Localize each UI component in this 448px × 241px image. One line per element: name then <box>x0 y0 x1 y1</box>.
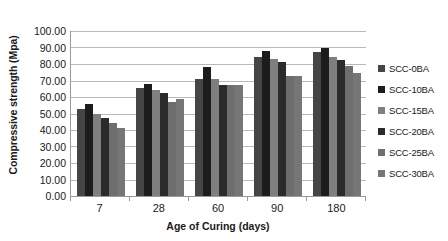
y-axis-tick-label: 0.00 <box>46 190 66 202</box>
bar[interactable] <box>353 73 361 196</box>
legend-swatch-icon <box>378 86 385 93</box>
bar-group <box>307 31 366 196</box>
bar[interactable] <box>77 109 85 196</box>
x-axis-tick-label: 28 <box>129 202 188 218</box>
bar[interactable] <box>117 128 125 196</box>
legend-item-label: SCC-25BA <box>389 147 434 158</box>
legend-item-label: SCC-15BA <box>389 105 434 116</box>
legend-swatch-icon <box>378 170 385 177</box>
bar-groups <box>71 31 366 196</box>
bar[interactable] <box>176 99 184 196</box>
legend-swatch-icon <box>378 149 385 156</box>
bar[interactable] <box>101 118 109 196</box>
y-axis-tick-label: 20.00 <box>40 157 66 169</box>
legend-item-label: SCC-30BA <box>389 168 434 179</box>
bar[interactable] <box>195 79 203 196</box>
y-axis-tick-label: 60.00 <box>40 91 66 103</box>
legend-item[interactable]: SCC-10BA <box>378 79 448 100</box>
y-axis-tick-label: 30.00 <box>40 141 66 153</box>
bar[interactable] <box>345 66 353 196</box>
y-axis-tick-label: 10.00 <box>40 174 66 186</box>
bar[interactable] <box>313 52 321 196</box>
bar[interactable] <box>203 67 211 196</box>
bar[interactable] <box>235 85 243 196</box>
bar[interactable] <box>270 59 278 196</box>
y-axis-tick-label: 90.00 <box>40 42 66 54</box>
x-axis-tick-mark <box>365 197 366 201</box>
bar[interactable] <box>211 79 219 196</box>
chart-legend: SCC-0BASCC-10BASCC-15BASCC-20BASCC-25BAS… <box>378 58 448 184</box>
y-axis-tick-label: 40.00 <box>40 124 66 136</box>
bar-group <box>248 31 307 196</box>
y-axis-tick-labels: 0.0010.0020.0030.0040.0050.0060.0070.008… <box>24 25 70 202</box>
bar[interactable] <box>144 84 152 196</box>
bar-group <box>130 31 189 196</box>
y-axis-title-label: Compressive strength (Mpa) <box>7 35 19 174</box>
legend-swatch-icon <box>378 107 385 114</box>
bar[interactable] <box>286 76 294 196</box>
legend-item-label: SCC-10BA <box>389 84 434 95</box>
bar[interactable] <box>262 51 270 196</box>
bar-chart-figure: Compressive strength (Mpa) 0.0010.0020.0… <box>0 0 448 241</box>
legend-item[interactable]: SCC-20BA <box>378 121 448 142</box>
x-axis-tick-label: 7 <box>70 202 129 218</box>
x-axis-tick-labels: 7286090180 <box>70 202 366 218</box>
bar[interactable] <box>136 88 144 196</box>
legend-item[interactable]: SCC-0BA <box>378 58 448 79</box>
legend-item-label: SCC-20BA <box>389 126 434 137</box>
legend-swatch-icon <box>378 128 385 135</box>
y-axis-tick-label: 70.00 <box>40 75 66 87</box>
x-axis-title: Age of Curing (days) <box>70 220 366 232</box>
bar[interactable] <box>294 76 302 196</box>
bar[interactable] <box>93 114 101 196</box>
bar[interactable] <box>85 104 93 196</box>
y-axis-title: Compressive strength (Mpa) <box>0 0 26 210</box>
bar[interactable] <box>329 57 337 196</box>
x-axis-tick-mark <box>70 197 71 201</box>
legend-item[interactable]: SCC-25BA <box>378 142 448 163</box>
bar[interactable] <box>168 102 176 196</box>
x-axis-tick-mark <box>129 197 130 201</box>
y-axis-tick-label: 100.00 <box>34 25 66 37</box>
y-axis-tick-label: 50.00 <box>40 108 66 120</box>
legend-item[interactable]: SCC-30BA <box>378 163 448 184</box>
x-axis-tick-mark <box>247 197 248 201</box>
bar[interactable] <box>254 57 262 196</box>
plot-area <box>70 31 366 197</box>
x-axis-tick-mark <box>306 197 307 201</box>
bar[interactable] <box>152 90 160 196</box>
bar[interactable] <box>160 93 168 196</box>
y-axis-tick-label: 80.00 <box>40 58 66 70</box>
legend-swatch-icon <box>378 65 385 72</box>
bar[interactable] <box>337 60 345 196</box>
legend-item[interactable]: SCC-15BA <box>378 100 448 121</box>
x-axis-tick-label: 90 <box>248 202 307 218</box>
x-axis-tick-label: 180 <box>307 202 366 218</box>
bar[interactable] <box>219 85 227 196</box>
bar[interactable] <box>109 123 117 196</box>
legend-item-label: SCC-0BA <box>389 63 429 74</box>
bar[interactable] <box>321 48 329 196</box>
bar[interactable] <box>278 62 286 196</box>
bar[interactable] <box>227 85 235 196</box>
x-axis-tick-mark <box>188 197 189 201</box>
bar-group <box>189 31 248 196</box>
bar-group <box>71 31 130 196</box>
x-axis-tick-label: 60 <box>188 202 247 218</box>
